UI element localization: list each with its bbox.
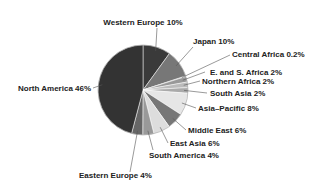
slice-label: Central Africa 0.2% xyxy=(232,50,305,59)
slice-label: Asia–Pacific 8% xyxy=(198,104,259,113)
slice-label: South Asia 2% xyxy=(210,89,265,98)
slice-label: Eastern Europe 4% xyxy=(79,171,152,180)
slice-label: Middle East 6% xyxy=(188,126,246,135)
slice-label: Western Europe 10% xyxy=(103,18,182,27)
pie-chart: Western Europe 10%Japan 10%Central Afric… xyxy=(0,0,309,188)
slice-label: South America 4% xyxy=(149,151,219,160)
leader-line xyxy=(130,131,138,172)
leader-line xyxy=(176,47,193,66)
pie-slices xyxy=(98,45,188,135)
leader-line xyxy=(173,118,186,130)
slice-label: E. and S. Africa 2% xyxy=(210,68,282,77)
slice-label: Northern Africa 2% xyxy=(202,77,274,86)
slice-label: Japan 10% xyxy=(193,37,234,46)
slice-label: North America 46% xyxy=(18,84,91,93)
slice-label: East Asia 6% xyxy=(170,139,220,148)
